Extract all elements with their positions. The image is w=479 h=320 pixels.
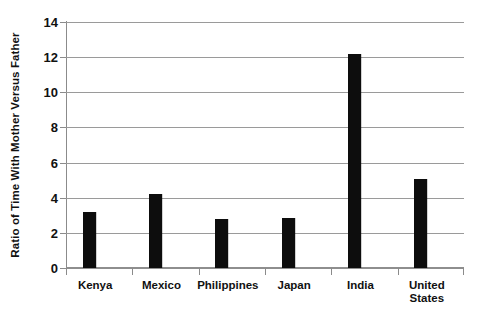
y-tick-label: 10 <box>44 86 58 99</box>
gridline-14 <box>66 22 464 23</box>
x-tick-mark <box>463 268 464 275</box>
x-axis-label: Philippines <box>191 279 265 292</box>
y-tick-label: 2 <box>51 226 58 239</box>
bar <box>215 219 228 268</box>
gridline-10 <box>66 92 464 93</box>
x-axis-label: Japan <box>257 279 331 292</box>
gridline-12 <box>66 57 464 58</box>
y-tick-label: 8 <box>51 121 58 134</box>
y-tick-label: 12 <box>44 51 58 64</box>
x-axis-label: India <box>324 279 398 292</box>
bar-chart-figure: Ratio of Time With Mother Versus Father … <box>0 0 479 320</box>
x-axis-label: United States <box>390 279 464 305</box>
x-tick-mark <box>132 268 133 275</box>
x-tick-mark <box>398 268 399 275</box>
y-tick-label: 6 <box>51 156 58 169</box>
y-axis-title: Ratio of Time With Mother Versus Father <box>0 0 30 290</box>
gridline-2 <box>66 233 464 234</box>
bar <box>83 212 96 268</box>
y-tick-mark-8 <box>60 127 66 128</box>
x-axis-label: Kenya <box>58 279 132 292</box>
gridline-8 <box>66 127 464 128</box>
bar <box>282 218 295 268</box>
y-tick-label: 14 <box>44 16 58 29</box>
bar <box>348 54 361 268</box>
y-axis-title-text: Ratio of Time With Mother Versus Father <box>9 32 21 257</box>
y-axis-tick-labels: 02468101214 <box>30 0 62 290</box>
y-tick-mark-2 <box>60 233 66 234</box>
y-tick-mark-10 <box>60 92 66 93</box>
y-tick-label: 0 <box>51 262 58 275</box>
y-tick-label: 4 <box>51 191 58 204</box>
gridline-4 <box>66 198 464 199</box>
y-tick-mark-4 <box>60 198 66 199</box>
x-tick-mark <box>66 268 67 275</box>
y-tick-mark-12 <box>60 57 66 58</box>
x-axis: KenyaMexicoPhilippinesJapanIndiaUnited S… <box>66 268 464 320</box>
y-tick-mark-6 <box>60 163 66 164</box>
y-tick-mark-14 <box>60 22 66 23</box>
x-axis-label: Mexico <box>125 279 199 292</box>
gridline-6 <box>66 163 464 164</box>
x-tick-mark <box>265 268 266 275</box>
bar <box>149 194 162 268</box>
x-tick-mark <box>199 268 200 275</box>
plot-area <box>66 22 464 268</box>
bar <box>414 179 427 268</box>
x-tick-mark <box>331 268 332 275</box>
